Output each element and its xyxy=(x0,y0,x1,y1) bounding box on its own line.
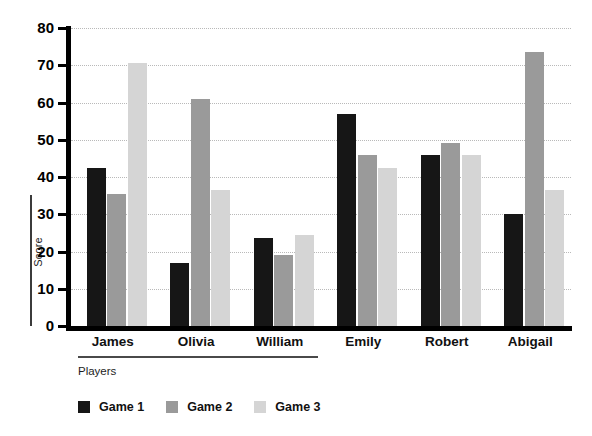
legend-swatch-icon xyxy=(78,401,90,413)
bar xyxy=(191,99,210,326)
bar xyxy=(504,214,523,326)
y-axis-tick xyxy=(58,64,67,67)
y-axis-tick-label: 20 xyxy=(6,244,54,259)
y-axis-tick-label: 40 xyxy=(6,169,54,184)
legend-swatch-icon xyxy=(254,401,266,413)
bar xyxy=(254,238,273,326)
y-axis-tick xyxy=(58,176,67,179)
bar xyxy=(378,168,397,326)
bar-group xyxy=(71,28,155,326)
category-label-james: James xyxy=(71,334,155,349)
legend-swatch-icon xyxy=(166,401,178,413)
y-axis-tick-label: 0 xyxy=(6,318,54,333)
category-label-emily: Emily xyxy=(322,334,406,349)
y-axis-tick xyxy=(58,27,67,30)
chart-legend: Game 1Game 2Game 3 xyxy=(78,400,343,414)
category-label-william: William xyxy=(238,334,322,349)
legend-item[interactable]: Game 2 xyxy=(166,400,232,414)
y-axis-tick xyxy=(58,213,67,216)
bar xyxy=(358,155,377,326)
y-axis-tick xyxy=(58,288,67,291)
category-label-robert: Robert xyxy=(405,334,489,349)
bar xyxy=(274,255,293,326)
legend-label: Game 2 xyxy=(187,400,232,414)
y-axis-tick xyxy=(58,325,67,328)
y-axis-tick-label: 50 xyxy=(6,132,54,147)
legend-item[interactable]: Game 1 xyxy=(78,400,144,414)
y-axis-tick-label: 30 xyxy=(6,206,54,221)
x-axis-line xyxy=(66,326,572,331)
y-axis-tick-label: 10 xyxy=(6,281,54,296)
bar xyxy=(87,168,106,326)
bar xyxy=(421,155,440,326)
y-axis-tick-label: 70 xyxy=(6,57,54,72)
x-axis-title-rule xyxy=(78,356,318,358)
bar xyxy=(170,263,189,326)
bars-layer xyxy=(71,28,572,326)
y-axis-tick xyxy=(58,139,67,142)
bar-group xyxy=(405,28,489,326)
bar xyxy=(545,190,564,326)
bar-group xyxy=(489,28,573,326)
legend-item[interactable]: Game 3 xyxy=(254,400,320,414)
category-label-abigail: Abigail xyxy=(489,334,573,349)
bar-group xyxy=(238,28,322,326)
bar xyxy=(128,63,147,326)
y-axis-tick-label: 80 xyxy=(6,20,54,35)
legend-label: Game 1 xyxy=(99,400,144,414)
bar xyxy=(462,155,481,326)
bar-chart: Score 01020304050607080 JamesOliviaWilli… xyxy=(0,0,592,436)
x-axis-title: Players xyxy=(78,365,116,377)
bar xyxy=(211,190,230,326)
bar-group xyxy=(155,28,239,326)
legend-label: Game 3 xyxy=(275,400,320,414)
y-axis-tick xyxy=(58,102,67,105)
bar xyxy=(337,114,356,326)
bar-group xyxy=(322,28,406,326)
bar xyxy=(107,194,126,326)
y-axis-tick xyxy=(58,251,67,254)
bar xyxy=(441,143,460,326)
bar xyxy=(525,52,544,326)
bar xyxy=(295,235,314,326)
y-axis-tick-label: 60 xyxy=(6,95,54,110)
category-label-olivia: Olivia xyxy=(155,334,239,349)
